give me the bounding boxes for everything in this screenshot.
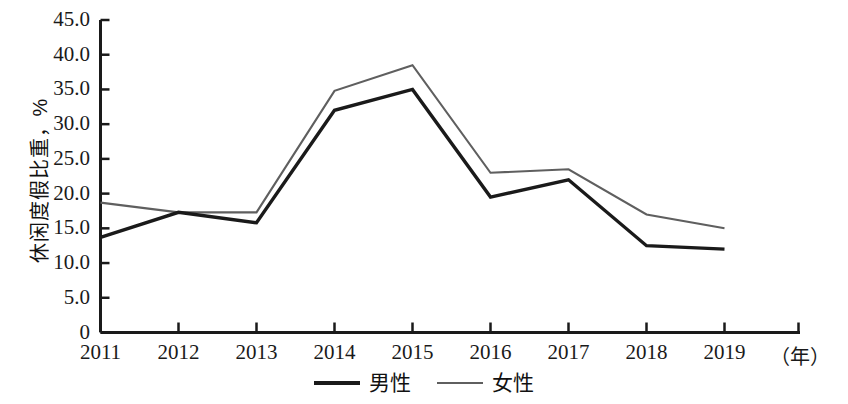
x-axis-tick-label: 2012: [134, 340, 224, 365]
series-line-male: [101, 89, 725, 249]
legend-label-female: 女性: [492, 372, 534, 393]
x-axis-tick-label: 2011: [56, 340, 146, 365]
x-axis-tick-label: 2016: [446, 340, 536, 365]
legend-line-swatch-male: [314, 381, 360, 385]
legend-item-male: 男性: [314, 372, 411, 393]
x-axis-tick-label: 2019: [680, 340, 770, 365]
legend-item-female: 女性: [437, 372, 534, 393]
chart-legend: 男性 女性: [0, 372, 848, 393]
x-axis-tick-label: 2018: [602, 340, 692, 365]
x-axis-tick-label: 2013: [212, 340, 302, 365]
x-axis-tick-label: 2014: [290, 340, 380, 365]
x-axis-tick-label: 2017: [524, 340, 614, 365]
x-axis-unit-label: （年）: [770, 341, 830, 370]
legend-line-swatch-female: [437, 382, 483, 384]
line-chart: 05.010.015.020.025.030.035.040.045.0 201…: [0, 0, 848, 404]
y-axis-tick-label: 45.0: [8, 7, 90, 32]
x-axis-tick-label: 2015: [368, 340, 458, 365]
axis-frame: [101, 20, 801, 333]
legend-label-male: 男性: [369, 372, 411, 393]
y-axis-title: 休闲度假比重，%: [24, 61, 53, 301]
